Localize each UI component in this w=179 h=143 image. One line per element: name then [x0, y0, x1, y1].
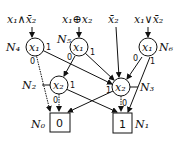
input-label: x₁∧x̄₂ [7, 13, 36, 26]
node-var: x₁ [29, 41, 40, 54]
edge-label: 0 [122, 99, 127, 108]
edge-label: 1 [46, 43, 51, 52]
node-var: x₂ [115, 81, 126, 94]
input-label: x̄₂ [108, 13, 119, 26]
input-arrow [116, 27, 119, 77]
node-name: N₀ [30, 118, 46, 131]
edge-label: 0 [67, 53, 72, 62]
node-name: N₂ [21, 79, 36, 92]
node-var: x₂ [53, 79, 64, 92]
edge-label: 0 [30, 57, 35, 66]
bdd-diagram: x₁∧x̄₂ x₁⊕x₂ x̄₂ x₁∨x̄₂ x₁ x₁ x₁ x₂ x₂ 0… [0, 0, 179, 143]
input-label: x₁∨x̄₂ [134, 13, 163, 26]
node-var: x₁ [142, 41, 153, 54]
node-name: N₄ [5, 41, 20, 54]
edge-label: 1 [90, 48, 95, 57]
edge-label: 0 [133, 54, 138, 63]
node-name: N₃ [139, 81, 154, 94]
terminal-value: 0 [56, 117, 63, 130]
input-label: x₁⊕x₂ [62, 13, 92, 26]
node-name: N₅ [56, 33, 72, 46]
edge-label: 0 [53, 96, 58, 105]
terminal-value: 1 [119, 118, 126, 131]
node-name: N₁ [134, 118, 149, 131]
edge-label: 1 [106, 86, 111, 95]
node-name: N₆ [158, 41, 174, 54]
edge-label: 1 [150, 57, 155, 66]
edge-label: 1 [70, 81, 75, 90]
node-var: x₁ [73, 41, 84, 54]
